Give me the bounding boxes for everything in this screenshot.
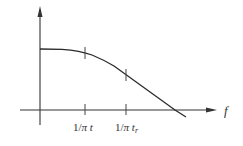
tick-label-1: 1/π t — [73, 121, 94, 133]
y-axis-arrow-icon — [38, 6, 43, 17]
x-axis-arrow-icon — [206, 108, 217, 113]
tick-label-2: 1/π tr — [115, 121, 139, 135]
response-curve — [40, 49, 186, 117]
x-axis-label: f — [224, 103, 230, 118]
frequency-response-diagram: f 1/π t 1/π tr — [0, 0, 243, 146]
